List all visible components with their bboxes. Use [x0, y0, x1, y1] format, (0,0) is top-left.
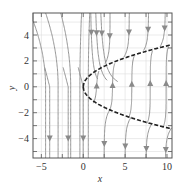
- dashed-curve-upper: [83, 45, 171, 87]
- y-tick-label: 0: [24, 81, 29, 92]
- x-tick-label: −5: [36, 161, 47, 172]
- x-tick-labels: −50510: [36, 161, 172, 172]
- y-tick-label: 4: [24, 30, 29, 41]
- flow-arrow-icon: [110, 82, 116, 88]
- trajectory-curve: [105, 13, 110, 64]
- phase-portrait-figure: −50510 420−2−4 x y: [0, 0, 182, 186]
- flow-arrow-icon: [107, 33, 113, 39]
- y-tick-labels: 420−2−4: [18, 30, 29, 145]
- x-tick-label: 0: [81, 161, 86, 172]
- flow-arrow-icon: [94, 83, 100, 89]
- trajectory-curve: [104, 109, 110, 157]
- flow-arrow-icon: [147, 80, 153, 86]
- dashed-curve-lower: [83, 87, 171, 129]
- x-tick-label: 10: [162, 161, 172, 172]
- flow-arrow-icon: [126, 29, 132, 35]
- x-tick-label: 5: [123, 161, 128, 172]
- flow-arrow-icon: [163, 147, 169, 153]
- flow-arrow-icon: [163, 80, 169, 86]
- y-tick-label: −4: [18, 133, 29, 144]
- flow-arrow-icon: [101, 141, 107, 147]
- trajectory-curve: [146, 123, 152, 158]
- flow-arrow-icon: [143, 146, 149, 152]
- y-axis-label: y: [6, 85, 17, 91]
- y-tick-label: 2: [24, 55, 29, 66]
- y-tick-label: −2: [18, 107, 29, 118]
- flow-arrow-icon: [122, 144, 128, 150]
- flow-arrow-icon: [129, 81, 135, 87]
- trajectory-curve: [125, 117, 131, 157]
- trajectory-curve: [166, 128, 172, 158]
- trajectory-curve: [163, 47, 169, 128]
- x-axis-label: x: [97, 173, 103, 184]
